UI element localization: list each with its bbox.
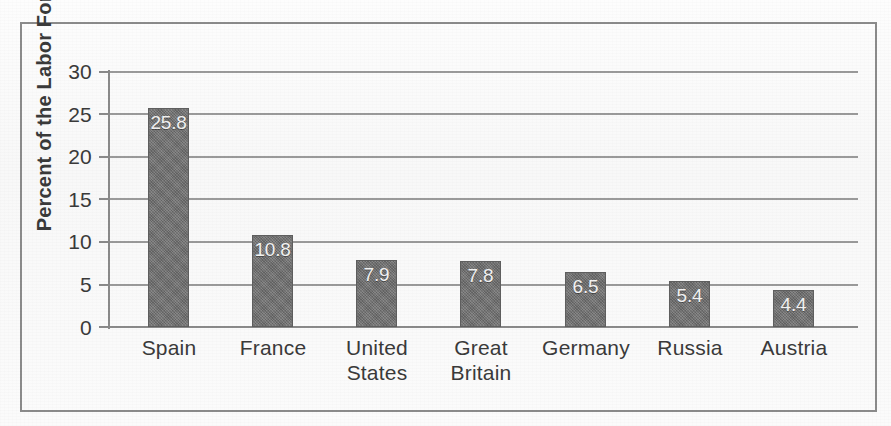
gridline-30 bbox=[110, 71, 858, 73]
bar-russia[interactable]: 5.4 bbox=[669, 281, 710, 327]
x-axis-label-austria-line1: Austria bbox=[724, 336, 864, 361]
bar-value-russia: 5.4 bbox=[670, 286, 709, 305]
x-axis-label-austria: Austria bbox=[724, 336, 864, 361]
bar-value-france: 10.8 bbox=[253, 240, 292, 259]
gridline-10 bbox=[110, 241, 858, 243]
y-axis-label-5: 5 bbox=[32, 274, 92, 295]
bar-value-austria: 4.4 bbox=[774, 295, 813, 314]
plot-area: 25.8 10.8 7.9 7.8 6.5 5.4 4.4 bbox=[110, 72, 858, 327]
gridline-25 bbox=[110, 113, 858, 115]
y-axis-tick-10 bbox=[99, 241, 110, 243]
gridline-20 bbox=[110, 156, 858, 158]
bar-united-states[interactable]: 7.9 bbox=[356, 260, 397, 327]
bar-value-united-states: 7.9 bbox=[357, 265, 396, 284]
y-axis-label-10: 10 bbox=[32, 231, 92, 252]
bar-great-britain[interactable]: 7.8 bbox=[460, 261, 501, 327]
bar-france[interactable]: 10.8 bbox=[252, 235, 293, 327]
chart-page: Percent of the Labor Force 30 25 20 15 1… bbox=[0, 0, 891, 426]
y-axis-tick-0 bbox=[99, 326, 110, 328]
bar-spain[interactable]: 25.8 bbox=[148, 108, 189, 327]
y-axis-label-25: 25 bbox=[32, 104, 92, 125]
y-axis-label-30: 30 bbox=[32, 61, 92, 82]
x-axis-label-great-britain-line2: Britain bbox=[411, 361, 551, 386]
y-axis-tick-15 bbox=[99, 198, 110, 200]
y-axis-tick-30 bbox=[99, 71, 110, 73]
y-axis-label-15: 15 bbox=[32, 189, 92, 210]
y-axis-tick-20 bbox=[99, 156, 110, 158]
y-axis-label-0: 0 bbox=[32, 317, 92, 338]
bar-value-germany: 6.5 bbox=[566, 277, 605, 296]
bar-germany[interactable]: 6.5 bbox=[565, 272, 606, 327]
y-axis-tick-25 bbox=[99, 113, 110, 115]
gridline-15 bbox=[110, 198, 858, 200]
y-axis-tick-5 bbox=[99, 284, 110, 286]
y-axis-label-20: 20 bbox=[32, 146, 92, 167]
bar-value-spain: 25.8 bbox=[149, 113, 188, 132]
bar-austria[interactable]: 4.4 bbox=[773, 290, 814, 327]
bar-value-great-britain: 7.8 bbox=[461, 266, 500, 285]
